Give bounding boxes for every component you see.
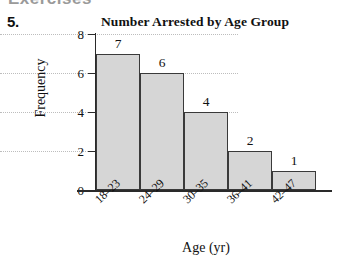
y-axis-tick: [88, 34, 96, 35]
y-axis-tick-label: 2: [62, 145, 84, 158]
y-axis-tick: [88, 73, 96, 74]
plot-area: 76421: [96, 34, 316, 190]
y-axis-title: Frequency: [33, 43, 49, 133]
bar-value-label: 2: [228, 134, 272, 148]
y-axis-tick-label: 6: [62, 67, 84, 80]
x-axis-title: Age (yr): [96, 240, 316, 256]
y-axis-tick: [88, 151, 96, 152]
y-axis-tick: [88, 112, 96, 113]
bar: [184, 112, 228, 190]
y-axis-tick-label: 8: [62, 28, 84, 41]
bar-value-label: 4: [184, 95, 228, 109]
bar-value-label: 1: [272, 154, 316, 168]
bar-value-label: 7: [96, 37, 140, 51]
y-axis-tick-label: 4: [62, 106, 84, 119]
bar-chart-figure: Number Arrested by Age Group 02468 Frequ…: [0, 0, 338, 269]
chart-title: Number Arrested by Age Group: [56, 14, 334, 30]
bar-value-label: 6: [140, 56, 184, 70]
bar: [140, 73, 184, 190]
bar: [96, 54, 140, 191]
